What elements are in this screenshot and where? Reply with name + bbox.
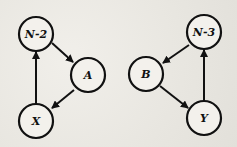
node-label: N-2 xyxy=(24,28,48,41)
right-cycle-edges xyxy=(160,45,204,108)
edge-n2-to-a xyxy=(52,43,73,62)
node-label: B xyxy=(140,68,150,81)
node-label: Y xyxy=(200,112,209,125)
node-n-2: N-2 xyxy=(19,17,53,51)
edge-b-to-y xyxy=(160,86,188,108)
node-a: A xyxy=(71,58,105,92)
diagram-svg: N-2 A X N-3 B Y xyxy=(0,0,237,147)
edge-n3-to-b xyxy=(163,45,189,63)
node-label: X xyxy=(31,115,41,128)
node-y: Y xyxy=(187,101,221,135)
node-x: X xyxy=(19,104,53,138)
node-n-3: N-3 xyxy=(187,15,221,49)
node-label: N-3 xyxy=(192,26,216,39)
left-cycle-edges xyxy=(36,43,74,108)
edge-a-to-x xyxy=(52,90,74,108)
node-b: B xyxy=(129,57,163,91)
node-label: A xyxy=(83,69,93,82)
diagram-canvas: N-2 A X N-3 B Y xyxy=(0,0,237,147)
